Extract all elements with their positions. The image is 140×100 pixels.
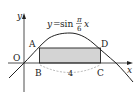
point-c-label: C [97, 68, 104, 78]
y-axis-label: y [16, 11, 23, 21]
rectangle-abcd [40, 48, 101, 63]
svg-text:6: 6 [77, 25, 82, 33]
y-axis-arrow-icon [22, 13, 26, 19]
function-label: y = sin π 6 x [46, 16, 89, 33]
svg-text:x: x [84, 19, 89, 29]
sine-graph-diagram: y x O A D B C 4 y = sin π 6 x [0, 0, 140, 100]
length-label: 4 [68, 69, 73, 78]
svg-text:y: y [46, 19, 53, 29]
svg-text:sin: sin [60, 19, 73, 29]
svg-text:π: π [76, 16, 82, 24]
point-d-label: D [101, 39, 108, 49]
point-b-label: B [35, 68, 42, 78]
x-axis-label: x [127, 65, 132, 75]
point-a-label: A [28, 39, 36, 49]
origin-label: O [13, 53, 20, 63]
